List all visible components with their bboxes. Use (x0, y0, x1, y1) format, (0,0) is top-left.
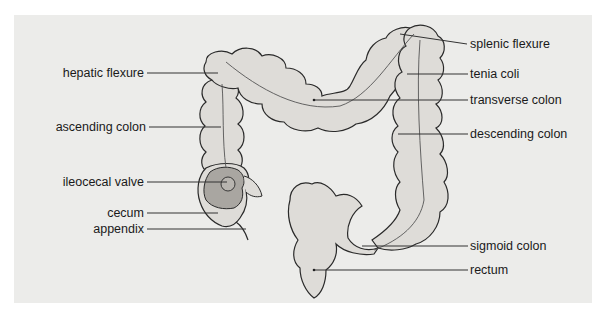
appendix-shape (236, 222, 248, 240)
label-transverse-colon: transverse colon (470, 93, 562, 107)
label-sigmoid-colon: sigmoid colon (470, 239, 546, 253)
label-ileocecal-valve: ileocecal valve (58, 175, 144, 189)
label-ascending-colon: ascending colon (48, 120, 146, 134)
label-rectum: rectum (470, 263, 508, 277)
label-hepatic-flexure: hepatic flexure (58, 66, 144, 80)
label-descending-colon: descending colon (470, 127, 567, 141)
ileocecal-valve-shape (221, 177, 235, 191)
label-cecum: cecum (58, 206, 144, 220)
label-splenic-flexure: splenic flexure (470, 37, 550, 51)
sigmoid-rectum-shape (288, 183, 378, 298)
label-appendix: appendix (58, 222, 144, 236)
label-tenia-coli: tenia coli (470, 67, 519, 81)
ascending-colon-shape (200, 78, 244, 172)
